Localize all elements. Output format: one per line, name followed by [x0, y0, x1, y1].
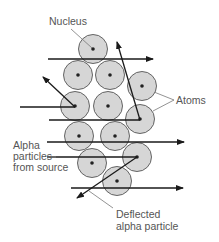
deflected-label-line1: Deflected [116, 208, 161, 220]
nucleus-dot [77, 134, 81, 138]
atoms-label: Atoms [176, 94, 206, 106]
nucleus-label: Nucleus [49, 15, 87, 27]
atoms-pointer [153, 92, 174, 111]
nucleus-dot [140, 84, 144, 88]
deflected-label-line2: alpha particle [116, 220, 179, 232]
nucleus-dot [113, 134, 117, 138]
nucleus-dot [106, 104, 110, 108]
nucleus-dot [115, 179, 119, 183]
nucleus-dot [76, 73, 80, 77]
alpha-source-label-line3: from source [13, 161, 69, 173]
nucleus-dot [90, 161, 94, 165]
nucleus-dot [108, 73, 112, 77]
rutherford-diagram: Nucleus Atoms Alpha particles from sourc… [0, 0, 219, 242]
diagram-canvas: Nucleus Atoms Alpha particles from sourc… [0, 0, 219, 242]
